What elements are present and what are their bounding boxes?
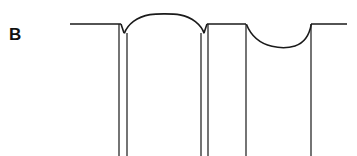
notch-1-path [121,24,124,33]
valley-path [246,24,311,47]
trace-chart [0,0,357,156]
notch-2-path [204,24,207,33]
arch-path [124,14,204,34]
figure-panel: B [0,0,357,156]
descender-lines-group [119,24,311,156]
